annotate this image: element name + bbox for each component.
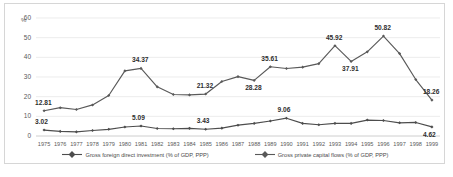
legend-label-fdi: Gross foreign direct investment (% of GD… — [85, 152, 208, 158]
data-label: 4.62 — [423, 131, 436, 138]
data-point — [43, 109, 46, 112]
data-point — [91, 129, 94, 132]
data-label: 35.61 — [261, 55, 278, 62]
data-point — [59, 106, 62, 109]
data-label: 21.32 — [197, 82, 214, 89]
data-point — [269, 120, 272, 123]
data-point — [156, 127, 159, 130]
data-label: 12.81 — [35, 99, 52, 106]
data-point — [350, 122, 353, 125]
data-point — [107, 128, 110, 131]
data-point — [333, 122, 336, 125]
chart-legend: Gross foreign direct investment (% of GD… — [5, 151, 446, 158]
data-point — [382, 119, 385, 122]
data-label: 45.92 — [326, 34, 343, 41]
data-point — [301, 122, 304, 125]
data-point — [204, 128, 207, 131]
legend-marker-icon — [62, 151, 82, 158]
data-label: 50.82 — [374, 24, 391, 31]
data-label: 37.91 — [342, 65, 359, 72]
data-point — [301, 66, 304, 69]
data-point — [253, 122, 256, 125]
data-point — [139, 124, 142, 127]
y-axis-tick-label: 20 — [15, 93, 31, 100]
x-axis-tick-label: 1999 — [422, 141, 442, 147]
data-label: 3.43 — [197, 117, 210, 124]
data-label: 5.09 — [132, 114, 145, 121]
data-point — [398, 121, 401, 124]
data-point — [220, 127, 223, 130]
legend-label-private-capital: Gross private capital flows (% of GDP, P… — [278, 152, 389, 158]
data-label: 34.37 — [132, 56, 149, 63]
data-label: 18.26 — [423, 88, 440, 95]
data-point — [236, 75, 239, 78]
data-point — [285, 67, 288, 70]
y-axis-tick-label: 50 — [15, 34, 31, 41]
data-point — [59, 130, 62, 133]
data-point — [366, 119, 369, 122]
data-point — [43, 129, 46, 132]
y-axis-tick-label: 10 — [15, 112, 31, 119]
data-point — [414, 121, 417, 124]
legend-item-fdi[interactable]: Gross foreign direct investment (% of GD… — [62, 151, 208, 158]
data-point — [430, 125, 433, 128]
data-point — [75, 108, 78, 111]
y-axis-tick-label: 0 — [15, 132, 31, 139]
data-point — [236, 124, 239, 127]
y-axis-tick-label: 30 — [15, 73, 31, 80]
data-point — [188, 127, 191, 130]
data-label: 9.06 — [277, 106, 290, 113]
legend-item-private-capital[interactable]: Gross private capital flows (% of GDP, P… — [255, 151, 389, 158]
data-point — [188, 93, 191, 96]
series-line-0 — [44, 36, 432, 111]
data-label: 28.28 — [245, 84, 262, 91]
data-point — [285, 117, 288, 120]
legend-marker-icon — [255, 151, 275, 158]
y-axis-tick-label: 60 — [15, 14, 31, 21]
data-point — [172, 127, 175, 130]
data-point — [75, 130, 78, 133]
y-axis-tick-label: 40 — [15, 53, 31, 60]
data-point — [317, 123, 320, 126]
data-point — [123, 125, 126, 128]
chart-container: %605040302010019751976197719781979198019… — [4, 3, 445, 164]
data-label: 3.02 — [35, 118, 48, 125]
